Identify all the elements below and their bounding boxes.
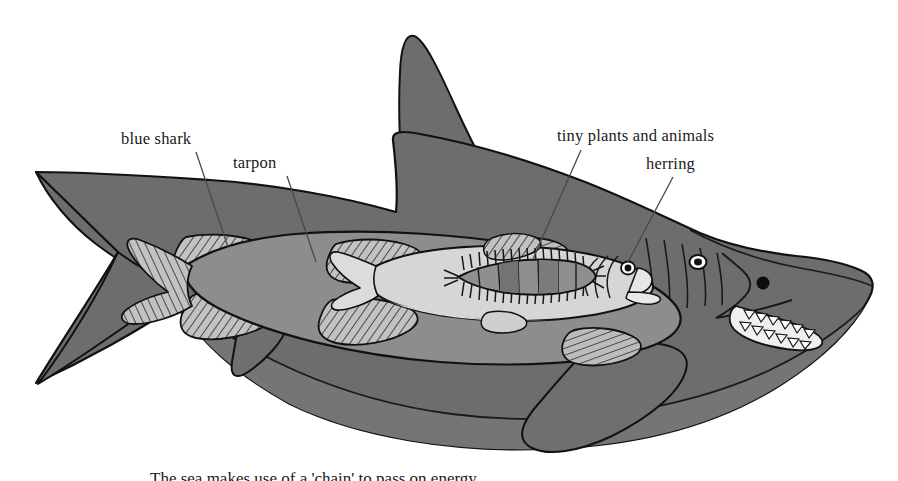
food-chain-illustration xyxy=(0,0,898,481)
herring-eye xyxy=(621,262,635,275)
label-tiny-plants-and-animals: tiny plants and animals xyxy=(557,128,714,145)
label-tarpon: tarpon xyxy=(233,155,276,172)
shark-eye xyxy=(690,255,707,269)
diagram-canvas: blue shark tarpon tiny plants and animal… xyxy=(0,0,898,481)
label-herring: herring xyxy=(646,156,695,173)
figure-caption: The sea makes use of a 'chain' to pass o… xyxy=(150,470,480,481)
label-blue-shark: blue shark xyxy=(121,131,191,148)
shark-nostril xyxy=(757,277,770,290)
